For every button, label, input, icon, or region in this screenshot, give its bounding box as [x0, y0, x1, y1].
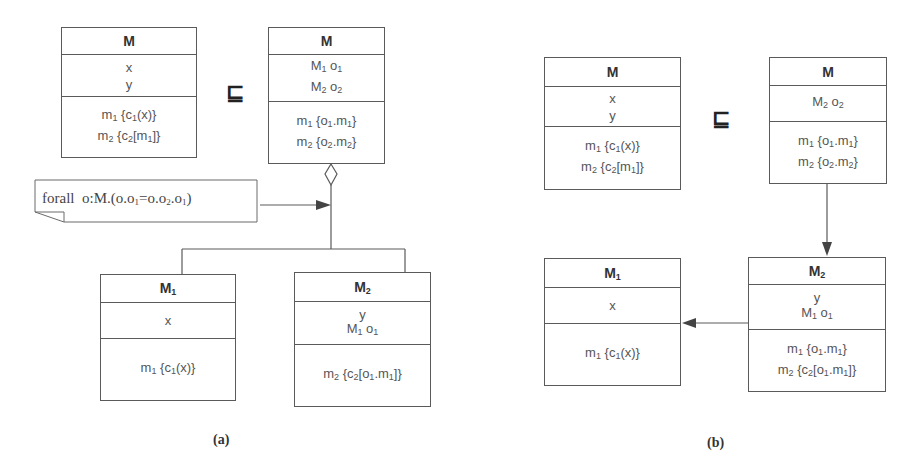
attributes-section: x y	[545, 86, 680, 126]
class-m1-b: M1 x m1 {c1(x)}	[544, 258, 681, 386]
attributes-section: M1 o1 M2 o2	[269, 54, 384, 101]
methods-section: m1 {c1(x)} m2 {c2[m1]}	[62, 96, 196, 157]
attributes-section: M2 o2	[770, 85, 886, 121]
class-m-left-a: M x y m1 {c1(x)} m2 {c2[m1]}	[61, 27, 197, 158]
refinement-symbol-a: ⊑	[226, 80, 244, 106]
class-name: M	[545, 58, 680, 86]
class-m-right-b: M M2 o2 m1 {o1.m1} m2 {o2.m2}	[769, 57, 887, 184]
assoc-m-to-m2-arrowhead-icon	[822, 242, 832, 256]
attributes-section: x y	[62, 54, 196, 96]
assoc-m2-to-m1-arrowhead-icon	[682, 318, 696, 328]
methods-section: m1 {o1.m1} m2 {o2.m2}	[770, 121, 886, 183]
note-arrowhead-icon	[316, 200, 331, 210]
class-m-left-b: M x y m1 {c1(x)} m2 {c2[m1]}	[544, 57, 681, 190]
attributes-section: y M1 o1	[295, 301, 430, 344]
methods-section: m1 {o1.m1} m2 {c2[o1.m1]}	[749, 329, 885, 391]
attributes-section: y M1 o1	[749, 284, 885, 329]
class-name: M	[770, 58, 886, 85]
class-name: M1	[545, 259, 680, 287]
aggregation-diamond-icon	[325, 164, 337, 185]
attributes-section: x	[101, 302, 235, 338]
class-name: M2	[749, 258, 885, 284]
methods-section: m1 {c1(x)}	[545, 323, 680, 385]
attributes-section: x	[545, 287, 680, 323]
class-name: M	[62, 28, 196, 54]
caption-a: (a)	[213, 432, 229, 448]
class-m1-a: M1 x m1 {c1(x)}	[100, 274, 236, 401]
methods-section: m2 {c2[o1.m1]}	[295, 344, 430, 406]
refinement-symbol-b: ⊑	[712, 106, 730, 132]
class-name: M2	[295, 273, 430, 301]
class-m2-b: M2 y M1 o1 m1 {o1.m1} m2 {c2[o1.m1]}	[748, 257, 886, 392]
methods-section: m1 {c1(x)}	[101, 338, 235, 400]
methods-section: m1 {o1.m1} m2 {o2.m2}	[269, 101, 384, 163]
class-name: M	[269, 28, 384, 54]
methods-section: m1 {c1(x)} m2 {c2[m1]}	[545, 126, 680, 189]
constraint-note: forall o:M.(o.o1=o.o2.o1)	[42, 190, 191, 207]
caption-b: (b)	[707, 435, 724, 451]
class-m-right-a: M M1 o1 M2 o2 m1 {o1.m1} m2 {o2.m2}	[268, 27, 385, 164]
class-name: M1	[101, 275, 235, 302]
class-m2-a: M2 y M1 o1 m2 {c2[o1.m1]}	[294, 272, 431, 407]
